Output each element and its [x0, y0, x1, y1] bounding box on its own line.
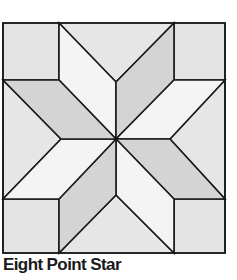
center-point — [114, 137, 118, 141]
corner-square-bottom-left — [3, 199, 59, 253]
corner-square-bottom-right — [174, 199, 225, 253]
corner-square-top-left — [3, 23, 59, 80]
diagram-caption: Eight Point Star — [3, 255, 121, 275]
corner-square-top-right — [174, 23, 225, 80]
quilt-block-diagram — [0, 0, 237, 256]
